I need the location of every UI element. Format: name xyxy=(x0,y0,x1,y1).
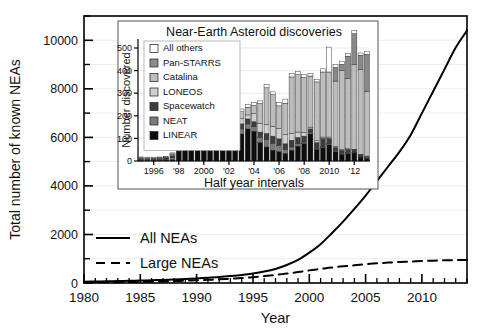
inset-bar-segment-catalina xyxy=(327,72,332,137)
inset-bar-segment-spacewatch xyxy=(339,150,344,153)
main-x-axis: 1980198519901995200020052010 xyxy=(69,274,467,305)
inset-bar-segment-linear xyxy=(314,149,319,161)
inset-bar-segment-all-others xyxy=(277,103,282,106)
inset-bar-segment-spacewatch xyxy=(170,156,175,158)
inset-bar-segment-neat xyxy=(245,124,250,129)
inset-bar-segment-loneos xyxy=(258,124,263,133)
inset-x-tick-label: '98 xyxy=(173,166,185,176)
inset-bar-segment-catalina xyxy=(264,88,269,125)
inset-bar-segment-pan-starrs xyxy=(358,55,363,69)
inset-x-tick-label: '12 xyxy=(348,166,360,176)
inset-bar-segment-linear xyxy=(258,142,263,161)
inset-bar-segment-linear xyxy=(270,150,275,161)
inset-bar-segment-pan-starrs xyxy=(339,64,344,70)
inset-bar xyxy=(320,69,325,161)
inset-bar-segment-spacewatch xyxy=(258,132,263,137)
inset-x-axis-title: Half year intervals xyxy=(204,176,304,190)
inset-bar-segment-all-others xyxy=(289,73,294,77)
inset-bar-segment-neat xyxy=(251,127,256,132)
inset-y-axis-title: Number discovered xyxy=(120,52,132,147)
inset-bar-segment-spacewatch xyxy=(264,133,269,139)
inset-bar-segment-spacewatch xyxy=(270,136,275,143)
inset-legend-label-linear: LINEAR xyxy=(163,129,197,140)
inset-bar-segment-catalina xyxy=(251,105,256,113)
inset-bar-segment-loneos xyxy=(283,135,288,144)
inset-bar-segment-all-others xyxy=(270,92,275,95)
main-y-axis-title: Total number of known NEAs xyxy=(7,59,23,240)
inset-bar-segment-catalina xyxy=(245,107,250,115)
inset-bar xyxy=(333,65,338,161)
inset-bar-segment-all-others xyxy=(308,73,313,76)
inset-bar-segment-linear xyxy=(176,151,181,161)
inset-legend-label-pan-starrs: Pan-STARRS xyxy=(163,57,221,68)
inset-bar-segment-all-others xyxy=(139,157,144,158)
main-y-tick-label: 2000 xyxy=(50,228,78,242)
inset-bar-segment-loneos xyxy=(289,133,294,140)
inset-bar-segment-loneos xyxy=(270,126,275,136)
inset-bar-segment-catalina xyxy=(358,70,363,155)
main-x-tick-label: 1980 xyxy=(69,290,99,305)
inset-bar xyxy=(157,157,162,161)
main-x-tick-label: 1985 xyxy=(125,290,155,305)
main-y-tick-label: 6000 xyxy=(50,131,78,145)
inset-bar-segment-loneos xyxy=(264,124,269,133)
inset-bar-segment-all-others xyxy=(352,30,357,33)
inset-bar-segment-neat xyxy=(170,158,175,160)
inset-title: Near-Earth Asteroid discoveries xyxy=(166,25,342,39)
inset-bar-segment-spacewatch xyxy=(283,144,288,149)
inset-bar-segment-all-others xyxy=(358,53,363,55)
inset-legend-swatch-catalina xyxy=(150,74,158,82)
inset-bar-segment-linear xyxy=(283,153,288,161)
main-x-tick-label: 1995 xyxy=(238,290,268,305)
inset-bar-segment-all-others xyxy=(320,69,325,72)
inset-bar-segment-catalina xyxy=(333,81,338,147)
inset-bar-segment-spacewatch xyxy=(245,119,250,124)
inset-bar-segment-spacewatch xyxy=(320,138,325,147)
inset-legend-label-catalina: Catalina xyxy=(163,71,199,82)
inset-bar-segment-linear xyxy=(302,143,307,161)
main-x-tick-label: 2005 xyxy=(351,290,381,305)
main-y-axis: 0200040006000800010000 xyxy=(43,16,93,291)
inset-bar xyxy=(327,47,332,161)
inset-bar-segment-catalina xyxy=(320,72,325,137)
inset-bar-segment-all-others xyxy=(295,72,300,75)
inset-bar xyxy=(258,101,263,161)
inset-bar xyxy=(289,73,294,161)
inset-legend-swatch-loneos xyxy=(150,88,158,96)
inset-bar-segment-linear xyxy=(264,147,269,161)
inset-bar-segment-pan-starrs xyxy=(364,54,369,91)
inset-bar-segment-catalina xyxy=(314,82,319,141)
inset-bar xyxy=(270,92,275,161)
inset-bar xyxy=(295,72,300,161)
inset-y-tick-label: 500 xyxy=(117,43,132,53)
inset-bar-segment-spacewatch xyxy=(314,142,319,148)
inset-bar-segment-loneos xyxy=(245,115,250,119)
inset-bar xyxy=(314,79,319,161)
inset-bar-segment-linear xyxy=(358,157,363,161)
inset-bar-segment-pan-starrs xyxy=(333,67,338,81)
inset-x-tick-label: 1996 xyxy=(144,166,164,176)
inset-bar-segment-catalina xyxy=(258,104,263,124)
inset-bar-segment-all-others xyxy=(258,101,263,104)
inset-bar-segment-loneos xyxy=(251,114,256,122)
inset-bar-segment-spacewatch xyxy=(346,149,351,152)
inset-bar-segment-catalina xyxy=(364,91,369,156)
inset-bar-segment-linear xyxy=(339,154,344,161)
inset-bar-segment-loneos xyxy=(314,141,319,143)
inset-bar-segment-linear xyxy=(289,150,294,161)
inset-bar-segment-spacewatch xyxy=(352,150,357,153)
inset-bar-segment-catalina xyxy=(277,106,282,129)
inset-legend-swatch-pan-starrs xyxy=(150,59,158,67)
inset-bar-segment-catalina xyxy=(302,77,307,132)
inset-bar-segment-all-others xyxy=(245,105,250,108)
inset-bar xyxy=(245,105,250,161)
main-x-axis-title: Year xyxy=(261,310,290,326)
inset-bar-segment-catalina xyxy=(352,65,357,150)
inset-bar-segment-all-others xyxy=(364,51,369,54)
inset-bar-segment-linear xyxy=(352,153,357,161)
inset-bar-segment-loneos xyxy=(295,132,300,137)
inset-legend-swatch-linear xyxy=(150,132,158,140)
inset-x-tick-label: '06 xyxy=(273,166,285,176)
inset-legend-swatch-neat xyxy=(150,117,158,125)
inset-legend-label-loneos: LONEOS xyxy=(163,86,203,97)
